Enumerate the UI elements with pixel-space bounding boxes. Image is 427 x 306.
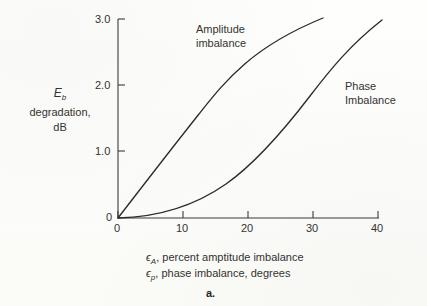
- x-tick-label-40: 40: [371, 222, 383, 234]
- x-tick-label-0: 0: [114, 222, 120, 234]
- y-axis-symbol-subscript: b: [62, 93, 66, 102]
- x-tick-label-30: 30: [306, 222, 318, 234]
- annotation-amplitude-imbalance: Amplitude imbalance: [196, 22, 246, 50]
- y-tick-marks: [118, 19, 125, 151]
- x-axis-caption-phase-text: , phase imbalance, degrees: [155, 267, 290, 279]
- x-tick-marks: [118, 211, 378, 218]
- annotation-amplitude-line2: imbalance: [196, 36, 246, 50]
- x-tick-label-20: 20: [241, 222, 253, 234]
- annotation-amplitude-line1: Amplitude: [196, 22, 246, 36]
- y-tick-label-0: 0: [106, 211, 112, 223]
- x-axis-caption-phase: ϵp, phase imbalance, degrees: [146, 267, 290, 282]
- y-tick-label-3: 3.0: [95, 13, 110, 25]
- figure-container: 3.0 2.0 1.0 0 0 10 20 30 40 Eb degradati…: [0, 0, 427, 306]
- annotation-phase-imbalance: Phase Imbalance: [345, 79, 396, 107]
- curve-phase-imbalance: [118, 20, 382, 218]
- annotation-phase-line2: Imbalance: [345, 93, 396, 107]
- x-tick-label-10: 10: [176, 222, 188, 234]
- y-tick-label-1: 1.0: [95, 145, 110, 157]
- x-axis-caption-amplitude-text: , percent amptitude imbalance: [156, 251, 303, 263]
- panel-caption: a.: [206, 287, 215, 299]
- y-axis-label: Eb degradation, dB: [14, 86, 106, 135]
- annotation-phase-line1: Phase: [345, 79, 396, 93]
- x-axis-caption-amplitude: ϵA, percent amptitude imbalance: [146, 251, 304, 266]
- y-axis-label-line3: dB: [14, 120, 106, 135]
- y-axis-label-symbol-row: Eb: [14, 86, 106, 105]
- y-axis-symbol: E: [54, 86, 62, 100]
- y-axis-label-line2: degradation,: [14, 105, 106, 120]
